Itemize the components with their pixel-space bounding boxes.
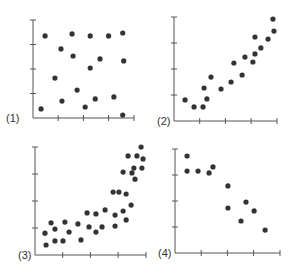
data-point [270,16,275,21]
data-point [62,219,67,224]
plot-4-points [184,153,267,232]
data-point [210,164,215,169]
data-point [58,46,63,51]
data-point [238,218,243,223]
data-point [129,170,134,175]
data-point [206,170,211,175]
data-point [83,104,88,109]
data-point [75,221,80,226]
data-point [120,170,125,175]
scatter-plot-3: (3) [18,144,146,261]
data-point [60,238,65,243]
data-point [140,156,145,161]
data-point [116,189,121,194]
data-point [111,189,116,194]
data-point [93,229,98,234]
data-point [52,238,57,243]
data-point [191,104,196,109]
data-point [200,104,205,109]
data-point [252,34,257,39]
data-point [243,199,248,204]
data-point [111,94,116,99]
data-point [120,208,125,213]
scatter-plot-2: (2) [157,16,277,127]
data-point [88,65,93,70]
data-point [52,226,57,231]
data-point [75,87,80,92]
data-point [70,53,75,58]
data-point [271,28,276,33]
data-point [59,98,64,103]
data-point [225,205,230,210]
data-point [258,45,263,50]
data-point [42,33,47,38]
plot-2-axes [171,17,277,124]
plot-1-points [38,30,126,117]
data-point [125,153,130,158]
data-point [184,153,189,158]
data-point [218,86,223,91]
data-point [225,183,230,188]
data-point [66,229,71,234]
data-point [250,59,255,64]
data-point [48,220,53,225]
data-point [129,202,134,207]
plot-3-points [42,144,145,247]
data-point [131,165,136,170]
plot-3-label: (3) [18,249,31,261]
data-point [184,169,189,174]
plot-1-label: (1) [6,112,19,124]
data-point [138,144,143,149]
scatter-plot-4: (4) [158,149,280,259]
data-point [182,97,187,102]
data-point [252,51,257,56]
data-point [112,224,117,229]
data-point [124,191,129,196]
plot-2-label: (2) [157,115,170,127]
data-point [120,30,125,35]
data-point [102,207,107,212]
data-point [208,74,213,79]
data-point [252,208,257,213]
data-point [195,169,200,174]
data-point [86,224,91,229]
data-point [231,60,236,65]
plot-4-axes [172,149,280,256]
data-point [93,211,98,216]
data-point [93,96,98,101]
data-point [263,228,268,233]
data-point [120,112,125,117]
data-point [38,106,43,111]
scatter-plot-1: (1) [6,20,134,124]
data-point [106,33,111,38]
data-point [242,54,247,59]
data-point [78,237,83,242]
data-point [124,217,129,222]
data-point [132,177,137,182]
data-point [112,212,117,217]
plot-4-label: (4) [158,247,171,259]
data-point [84,210,89,215]
data-point [139,165,144,170]
data-point [265,37,270,42]
data-point [99,224,104,229]
data-point [88,33,93,38]
scatter-figure: (1) (2) (3) (4) [0,0,298,276]
data-point [134,153,139,158]
data-point [228,79,233,84]
data-point [97,56,102,61]
data-point [43,242,48,247]
data-point [42,231,47,236]
data-point [201,85,206,90]
plot-2-points [182,16,276,109]
data-point [204,96,209,101]
data-point [121,58,126,63]
data-point [52,75,57,80]
data-point [69,31,74,36]
data-point [240,72,245,77]
plot-3-axes [32,147,146,258]
